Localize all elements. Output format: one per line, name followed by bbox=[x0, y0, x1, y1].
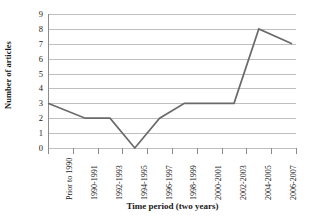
x-axis-tick bbox=[222, 148, 223, 154]
data-polyline bbox=[48, 29, 292, 148]
x-axis-tick-label: 2006-2007 bbox=[288, 155, 300, 200]
y-axis-title: Number of articles bbox=[0, 0, 16, 150]
y-axis-tick-label: 5 bbox=[39, 70, 43, 78]
x-axis-tick-label: Prior to 1990 bbox=[64, 155, 76, 200]
x-axis-tick bbox=[122, 148, 123, 154]
x-axis-tick bbox=[246, 148, 247, 154]
x-axis-tick-label: 1994-1995 bbox=[139, 155, 151, 200]
data-series-line bbox=[48, 14, 296, 148]
y-axis-tick-label: 1 bbox=[39, 129, 43, 137]
y-axis-title-label: Number of articles bbox=[3, 41, 13, 109]
x-axis-tick-label: 2004-2005 bbox=[263, 155, 275, 200]
x-axis-tick bbox=[73, 148, 74, 154]
x-axis-tick bbox=[48, 148, 49, 154]
x-axis-tick bbox=[271, 148, 272, 154]
y-axis-tick-label: 9 bbox=[39, 10, 43, 18]
x-axis-tick-label: 1996-1997 bbox=[164, 155, 176, 200]
line-chart-figure: Number of articles 9876543210 Prior to 1… bbox=[0, 0, 313, 221]
x-axis-title: Time period (two years) bbox=[48, 201, 297, 211]
y-axis-tick-label: 6 bbox=[39, 55, 43, 63]
x-axis-tick-label: 1992-1993 bbox=[114, 155, 126, 200]
x-axis-tick-labels: Prior to 19901990-19911992-19931994-1995… bbox=[48, 155, 297, 200]
x-axis-tick bbox=[296, 148, 297, 154]
y-axis-tick-label: 8 bbox=[39, 25, 43, 33]
x-axis-tick bbox=[98, 148, 99, 154]
x-axis-ticks bbox=[48, 148, 297, 155]
y-axis-tick-labels: 9876543210 bbox=[16, 0, 46, 155]
x-axis-tick-label: 1990-1991 bbox=[89, 155, 101, 200]
plot-area bbox=[48, 14, 296, 148]
y-axis-tick-label: 0 bbox=[39, 144, 43, 152]
x-axis-tick bbox=[197, 148, 198, 154]
y-axis-tick-label: 4 bbox=[39, 84, 43, 92]
y-axis-tick-label: 2 bbox=[39, 114, 43, 122]
x-axis-tick bbox=[147, 148, 148, 154]
y-axis-tick-label: 7 bbox=[39, 40, 43, 48]
y-axis-tick-label: 3 bbox=[39, 99, 43, 107]
x-axis-tick-label: 2002-2003 bbox=[238, 155, 250, 200]
x-axis-tick-label: 2000-2001 bbox=[213, 155, 225, 200]
x-axis-tick-label: 1998-1999 bbox=[188, 155, 200, 200]
x-axis-tick bbox=[172, 148, 173, 154]
